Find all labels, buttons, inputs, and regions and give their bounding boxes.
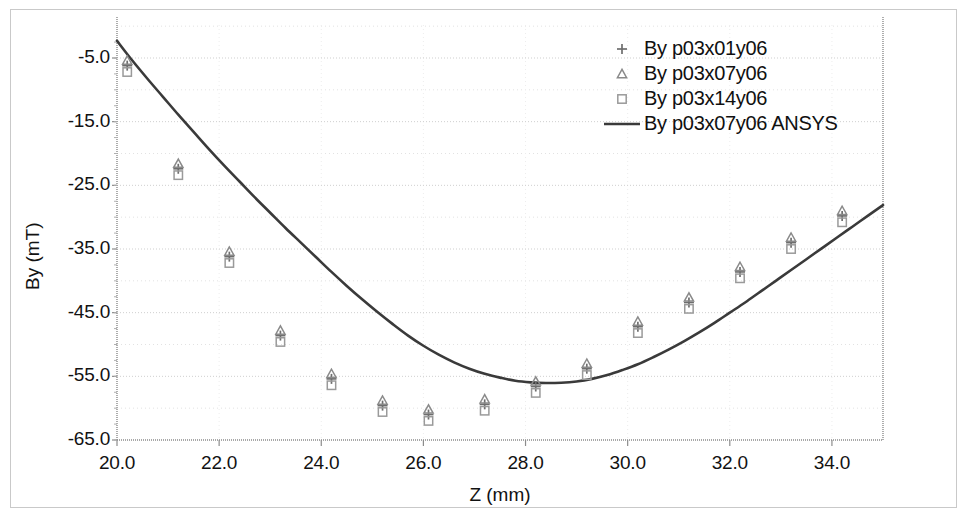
x-axis-title: Z (mm)	[420, 484, 580, 506]
y-axis-title: By (mT)	[22, 222, 44, 290]
x-tick-label: 28.0	[486, 452, 566, 474]
legend-marker-triangle	[602, 64, 642, 84]
legend-key	[600, 111, 644, 136]
legend-label: By p03x07y06 ANSYS	[644, 112, 838, 135]
legend-key	[600, 61, 644, 86]
legend-item: By p03x14y06	[600, 86, 900, 111]
y-tick-label: -25.0	[30, 173, 110, 195]
x-tick-label: 22.0	[179, 452, 259, 474]
legend-label: By p03x14y06	[644, 87, 767, 110]
chart-legend: By p03x01y06By p03x07y06By p03x14y06By p…	[600, 36, 900, 136]
y-tick-label: -5.0	[30, 46, 110, 68]
y-tick-label: -15.0	[30, 110, 110, 132]
legend-label: By p03x01y06	[644, 37, 767, 60]
y-tick-label: -65.0	[30, 428, 110, 450]
x-tick-label: 30.0	[588, 452, 668, 474]
legend-item: By p03x01y06	[600, 36, 900, 61]
legend-label: By p03x07y06	[644, 62, 767, 85]
legend-marker-square	[602, 89, 642, 109]
legend-key	[600, 86, 644, 111]
y-tick-label: -45.0	[30, 301, 110, 323]
legend-marker-plus	[602, 39, 642, 59]
legend-item: By p03x07y06 ANSYS	[600, 111, 900, 136]
x-tick-label: 32.0	[690, 452, 770, 474]
x-tick-label: 34.0	[792, 452, 872, 474]
chart-screenshot: -5.0-15.0-25.0-35.0-45.0-55.0-65.0 20.02…	[0, 0, 965, 518]
x-tick-label: 20.0	[77, 452, 157, 474]
x-tick-label: 26.0	[383, 452, 463, 474]
x-tick-label: 24.0	[281, 452, 361, 474]
y-tick-label: -55.0	[30, 364, 110, 386]
legend-marker-line	[602, 114, 642, 134]
legend-key	[600, 36, 644, 61]
legend-item: By p03x07y06	[600, 61, 900, 86]
